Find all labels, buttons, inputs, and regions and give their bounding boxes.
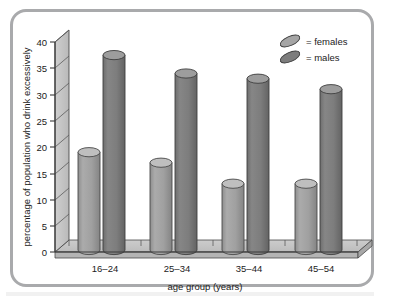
y-tick-label: 30: [36, 90, 47, 101]
legend-item-males[interactable]: = males: [279, 49, 340, 66]
y-tick-label: 35: [36, 63, 47, 74]
legend-label-females: = females: [306, 36, 348, 47]
y-tick-label: 5: [42, 221, 47, 232]
bar-group-16-24: [78, 51, 125, 255]
y-tick-label: 0: [42, 247, 47, 258]
legend-swatch-females-icon: [279, 33, 302, 50]
bar-males-45-54[interactable]: [320, 85, 342, 255]
bar-females-25-34[interactable]: [150, 158, 172, 255]
bar-group-25-34: [150, 69, 197, 255]
x-axis-title: age group (years): [168, 281, 243, 292]
legend-label-males: = males: [306, 52, 340, 63]
bar-group-35-44: [222, 74, 269, 255]
y-tick-label: 20: [36, 142, 47, 153]
bar-chart-plot: 40 35 30 25 20 15 10 5 0 percentage of p…: [0, 0, 393, 304]
x-category-label: 16–24: [92, 263, 118, 274]
y-axis-tick-labels: 40 35 30 25 20 15 10 5 0: [36, 37, 47, 259]
bar-females-35-44[interactable]: [222, 179, 244, 255]
y-tick-label: 25: [36, 116, 47, 127]
y-tick-label: 40: [36, 37, 47, 48]
chart-figure: 40 35 30 25 20 15 10 5 0 percentage of p…: [0, 0, 393, 304]
bar-males-16-24[interactable]: [103, 51, 125, 255]
y-tick-label: 15: [36, 169, 47, 180]
legend-swatch-males-icon: [279, 49, 302, 66]
bar-group-45-54: [295, 85, 342, 255]
x-category-label: 45–54: [308, 263, 334, 274]
x-category-label: 35–44: [236, 263, 262, 274]
bar-females-16-24[interactable]: [78, 148, 100, 255]
legend-item-females[interactable]: = females: [279, 33, 348, 50]
x-axis-category-labels: 16–24 25–34 35–44 45–54: [92, 263, 334, 274]
bar-males-25-34[interactable]: [175, 69, 197, 255]
chart-legend: = females = males: [279, 33, 348, 66]
y-tick-label: 10: [36, 195, 47, 206]
x-category-label: 25–34: [164, 263, 190, 274]
y-axis-wall: [50, 30, 69, 252]
bar-males-35-44[interactable]: [247, 74, 269, 255]
bar-females-45-54[interactable]: [295, 179, 317, 255]
y-axis-title: percentage of population who drink exces…: [21, 47, 32, 246]
